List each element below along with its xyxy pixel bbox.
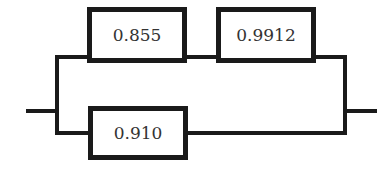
upper-middle-wire: [184, 55, 218, 59]
lower-left-wire: [55, 131, 90, 135]
component-label: 0.855: [113, 25, 162, 45]
component-box-upper-2: 0.9912: [216, 7, 316, 63]
input-wire: [26, 109, 58, 113]
left-junction-wire: [55, 55, 59, 135]
upper-left-wire: [55, 55, 89, 59]
component-box-upper-1: 0.855: [87, 7, 187, 63]
output-wire: [343, 109, 377, 113]
right-junction-wire: [343, 55, 347, 135]
component-box-lower-1: 0.910: [88, 106, 188, 160]
lower-right-wire: [186, 131, 347, 135]
component-label: 0.910: [114, 123, 163, 143]
component-label: 0.9912: [236, 25, 295, 45]
